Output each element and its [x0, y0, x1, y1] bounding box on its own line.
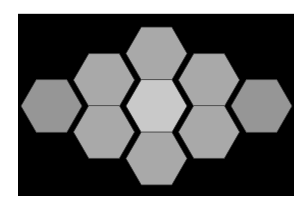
- hexagon-top: [126, 27, 187, 80]
- hexagon-bottom: [126, 132, 187, 185]
- hexagon-upper-left: [74, 54, 135, 107]
- hexagon-far-left: [21, 80, 82, 133]
- hexagon-lower-left: [74, 106, 135, 159]
- hexagon-lower-right: [179, 106, 240, 159]
- hexagon-center: [126, 80, 187, 133]
- hexagon-upper-right: [179, 54, 240, 107]
- hexagon-cluster: [0, 0, 307, 208]
- hexagon-far-right: [231, 80, 292, 133]
